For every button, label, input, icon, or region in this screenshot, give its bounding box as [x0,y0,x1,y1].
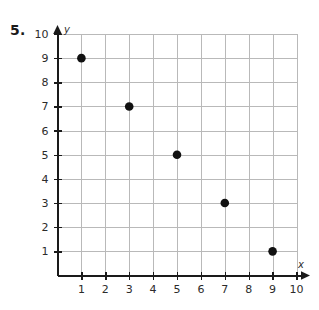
data-point-marker [125,102,134,111]
x-axis-arrow-icon [301,271,310,280]
data-point-marker [77,54,86,63]
x-tick-label: 6 [197,283,204,296]
x-tick-label: 5 [174,283,181,296]
y-tick-label: 10 [35,28,49,41]
data-point-marker [221,199,230,208]
y-tick-label: 7 [42,100,49,113]
tick-labels-group: 1234567891012345678910 [35,28,304,296]
coordinate-grid-plot: 1234567891012345678910 y x [0,0,319,310]
y-tick-label: 3 [42,197,49,210]
x-tick-label: 2 [102,283,109,296]
x-tick-label: 3 [126,283,133,296]
y-tick-label: 9 [42,52,49,65]
y-tick-label: 1 [42,245,49,258]
y-tick-label: 6 [42,125,49,138]
data-point-marker [173,150,182,159]
y-tick-label: 5 [42,149,49,162]
y-tick-label: 8 [42,76,49,89]
x-axis-label: x [297,259,304,270]
x-tick-label: 4 [150,283,157,296]
x-tick-label: 1 [78,283,85,296]
x-tick-label: 9 [269,283,276,296]
y-axis-arrow-icon [53,25,62,34]
y-axis-label: y [63,24,71,35]
scatter-plot-figure: 5. 1234567891012345678910 y x [0,0,319,310]
x-tick-label: 8 [245,283,252,296]
x-tick-label: 10 [290,283,304,296]
y-tick-label: 2 [42,221,49,234]
axes-group [53,25,310,280]
x-tick-label: 7 [221,283,228,296]
data-point-marker [268,247,277,256]
y-tick-label: 4 [42,173,49,186]
